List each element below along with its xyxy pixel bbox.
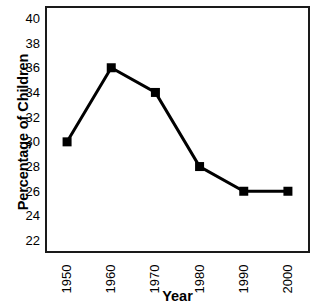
x-axis-tick-labels: 195019601970198019902000 xyxy=(0,0,318,307)
line-chart: ................ Percentage of Children … xyxy=(0,0,318,307)
x-axis-title: Year xyxy=(45,288,310,304)
